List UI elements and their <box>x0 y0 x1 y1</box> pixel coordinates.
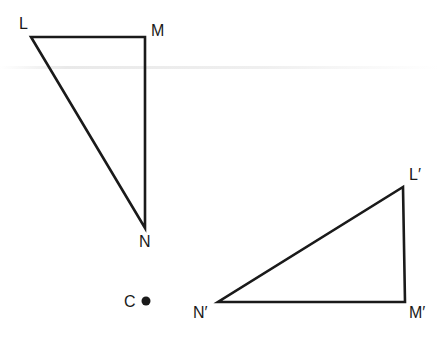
vertex-label-l-prime: L′ <box>409 167 421 183</box>
triangle-lmn <box>31 37 145 228</box>
vertex-label-n-prime: N′ <box>193 305 208 321</box>
vertex-label-n: N <box>139 234 151 250</box>
triangles-svg <box>0 0 439 340</box>
diagram-canvas: L M N L′ M′ N′ C <box>0 0 439 340</box>
center-point-c <box>142 297 151 306</box>
vertex-label-l: L <box>19 16 28 32</box>
vertex-label-m: M <box>151 23 164 39</box>
center-label-c: C <box>124 294 136 310</box>
vertex-label-m-prime: M′ <box>409 305 425 321</box>
triangle-l-prime-m-prime-n-prime <box>218 187 405 302</box>
